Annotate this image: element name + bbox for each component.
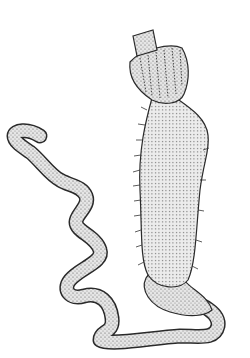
organism-drawing [0, 0, 250, 358]
main-body [133, 98, 209, 287]
illustration-canvas [0, 0, 250, 358]
